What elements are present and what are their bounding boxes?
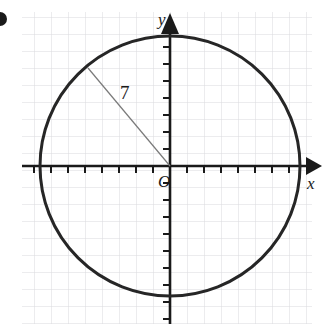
- figure-canvas: 7 y x O: [0, 0, 329, 334]
- y-axis-label: y: [156, 10, 166, 29]
- x-axis-label: x: [306, 174, 315, 193]
- circle-figure: 7 y x O: [0, 0, 329, 334]
- origin-label: O: [158, 172, 170, 191]
- coordinate-grid: [22, 12, 312, 324]
- radius-length-label: 7: [120, 82, 130, 103]
